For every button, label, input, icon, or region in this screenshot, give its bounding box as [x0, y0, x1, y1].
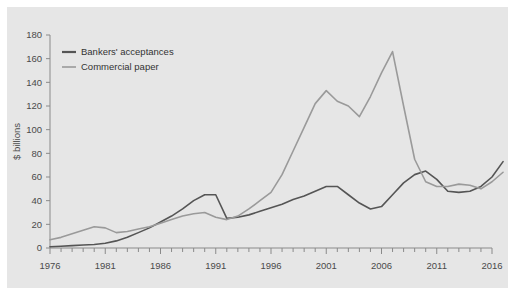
x-tick-label: 1986: [150, 260, 171, 271]
x-tick-label: 1976: [39, 260, 60, 271]
y-tick-label: 140: [26, 77, 42, 88]
x-tick-label: 2011: [427, 260, 447, 271]
x-tick-label: 2001: [316, 260, 337, 271]
y-tick-label: 20: [31, 219, 42, 230]
x-tick-label: 2006: [371, 260, 392, 271]
series-line-0: [50, 162, 503, 247]
x-tick-label: 1996: [260, 260, 281, 271]
legend-label-0: Bankers' acceptances: [81, 46, 174, 57]
y-axis-title: $ billions: [11, 123, 22, 160]
x-tick-label: 1981: [95, 260, 116, 271]
y-tick-label: 40: [31, 195, 42, 206]
y-tick-label: 60: [31, 171, 42, 182]
y-tick-label: 120: [26, 100, 42, 111]
y-tick-label: 180: [26, 29, 42, 40]
y-tick-label: 0: [37, 242, 42, 253]
x-tick-label: 2016: [481, 260, 502, 271]
y-tick-label: 80: [31, 148, 42, 159]
y-tick-label: 160: [26, 53, 42, 64]
x-tick-label: 1991: [205, 260, 226, 271]
y-tick-label: 100: [26, 124, 42, 135]
chart-plot-area: 0204060801001201401601801976198119861991…: [0, 0, 515, 302]
series-line-1: [50, 52, 503, 240]
chart-figure: 0204060801001201401601801976198119861991…: [0, 0, 515, 302]
legend-label-1: Commercial paper: [81, 61, 159, 72]
